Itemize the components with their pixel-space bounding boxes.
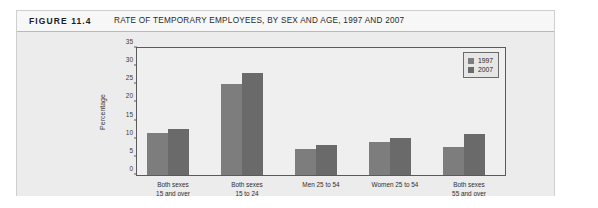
bar-2007 [316,145,337,175]
bar-group [285,48,359,175]
legend-label: 1997 [478,57,493,64]
legend-swatch-icon [468,58,474,64]
legend-item: 1997 [468,56,493,65]
bar-2007 [390,138,411,175]
y-axis-tick-label: 20 [126,92,133,99]
bar-2007 [242,73,263,175]
x-axis-category-label-line: Both sexes [136,181,210,190]
bar-1997 [369,142,390,175]
figure-block: FIGURE 11.4 RATE OF TEMPORARY EMPLOYEES,… [16,10,555,196]
x-axis-category-label-line: 55 and over [432,190,506,199]
bar-group [137,48,211,175]
bar-1997 [295,149,316,175]
y-axis-tick-label: 25 [126,74,133,81]
legend-swatch-icon [468,67,474,73]
x-axis-category-label-line: Both sexes [210,181,284,190]
bar-group [211,48,285,175]
x-axis-category-label: Both sexes55 and over [432,181,506,198]
chart-area: Percentage 05101520253035 19972007 Both … [17,32,554,196]
y-axis-tick-label: 5 [129,146,133,153]
x-axis-category-label-line: 15 and over [136,190,210,199]
y-axis-tick-label: 0 [129,165,133,172]
x-axis-category-label: Both sexes15 and over [136,181,210,198]
bar-1997 [221,84,242,175]
x-axis-category-label-line: Men 25 to 54 [284,181,358,190]
figure-number-label: FIGURE 11.4 [29,16,92,26]
y-axis-tick-label: 35 [126,38,133,45]
bar-1997 [147,133,168,175]
x-axis-category-label: Women 25 to 54 [358,181,432,190]
x-axis-category-label: Men 25 to 54 [284,181,358,190]
figure-title: RATE OF TEMPORARY EMPLOYEES, BY SEX AND … [114,16,404,25]
figure-header: FIGURE 11.4 RATE OF TEMPORARY EMPLOYEES,… [17,11,554,32]
x-axis-category-label-line: 15 to 24 [210,190,284,199]
y-axis-tick-label: 15 [126,110,133,117]
bar-2007 [464,134,485,175]
y-axis-tick-label: 10 [126,128,133,135]
x-axis-category-label: Both sexes15 to 24 [210,181,284,198]
bar-1997 [443,147,464,175]
x-axis-category-label-line: Both sexes [432,181,506,190]
chart-legend: 19972007 [463,52,499,78]
y-axis-title: Percentage [99,94,106,130]
x-axis-category-label-line: Women 25 to 54 [358,181,432,190]
bar-group [359,48,433,175]
y-axis-tick-label: 30 [126,56,133,63]
bar-2007 [168,129,189,175]
plot-frame: 05101520253035 19972007 [136,47,506,176]
legend-item: 2007 [468,65,493,74]
legend-label: 2007 [478,66,493,73]
